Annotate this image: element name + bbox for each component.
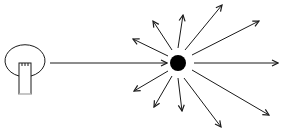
scattered-ray-down-arrow: [178, 78, 182, 111]
light-source-icon: [5, 45, 45, 94]
scattered-rays: [133, 5, 278, 127]
particle-dot: [170, 55, 186, 71]
scattered-ray-up-arrow: [178, 15, 183, 48]
scattered-ray-down-left-arrow: [154, 76, 172, 107]
scattered-ray-left-down-arrow: [134, 71, 168, 91]
scattered-ray-upper-right-arrow: [192, 21, 259, 55]
scattered-ray-up-left-arrow: [153, 21, 172, 50]
scattering-diagram: [0, 0, 283, 135]
scattered-ray-right-down-arrow: [192, 70, 269, 115]
scattered-ray-left-up-arrow: [133, 39, 168, 56]
scattered-ray-up-right-arrow: [185, 5, 222, 50]
scattered-ray-down-right-arrow: [184, 78, 221, 127]
